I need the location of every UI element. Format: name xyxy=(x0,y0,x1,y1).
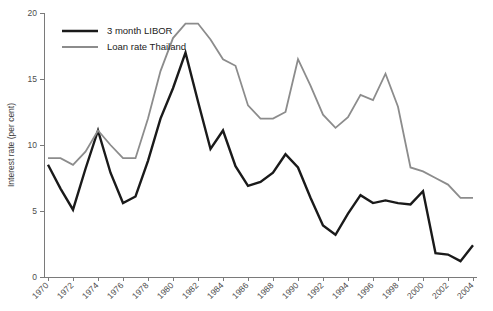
x-tick-label: 2004 xyxy=(455,280,476,301)
x-tick-label: 1994 xyxy=(330,280,351,301)
x-tick-label: 1980 xyxy=(155,280,176,301)
x-tick-label: 1988 xyxy=(255,280,276,301)
x-tick-label: 1990 xyxy=(280,280,301,301)
y-tick-label: 15 xyxy=(28,74,38,84)
x-tick-label: 1984 xyxy=(205,280,226,301)
x-tick-label: 2000 xyxy=(405,280,426,301)
y-axis: 05101520 xyxy=(28,8,44,282)
x-tick-label: 1978 xyxy=(130,280,151,301)
series-line-libor xyxy=(48,53,473,262)
x-tick-label: 1970 xyxy=(30,280,51,301)
legend-item-label: 3 month LIBOR xyxy=(107,25,173,36)
x-tick-label: 1982 xyxy=(180,280,201,301)
y-tick-label: 5 xyxy=(32,206,37,216)
y-tick-label: 10 xyxy=(28,140,38,150)
x-tick-label: 1996 xyxy=(355,280,376,301)
y-axis-title: Interest rate (per cent) xyxy=(6,103,16,187)
x-tick-label: 1986 xyxy=(230,280,251,301)
y-tick-label: 20 xyxy=(28,8,38,18)
interest-rate-line-chart: 05101520 1970197219741976197819801982198… xyxy=(0,0,493,311)
x-axis: 1970197219741976197819801982198419861988… xyxy=(30,277,477,301)
chart-plot-area: 05101520 1970197219741976197819801982198… xyxy=(0,0,493,311)
x-tick-label: 2002 xyxy=(430,280,451,301)
x-tick-label: 1972 xyxy=(55,280,76,301)
y-tick-label: 0 xyxy=(32,272,37,282)
x-tick-label: 1974 xyxy=(80,280,101,301)
x-tick-label: 1998 xyxy=(380,280,401,301)
series-lines xyxy=(48,24,473,262)
legend-item-label: Loan rate Thailand xyxy=(107,41,186,52)
x-tick-label: 1992 xyxy=(305,280,326,301)
x-tick-label: 1976 xyxy=(105,280,126,301)
chart-legend: 3 month LIBORLoan rate Thailand xyxy=(62,25,186,52)
